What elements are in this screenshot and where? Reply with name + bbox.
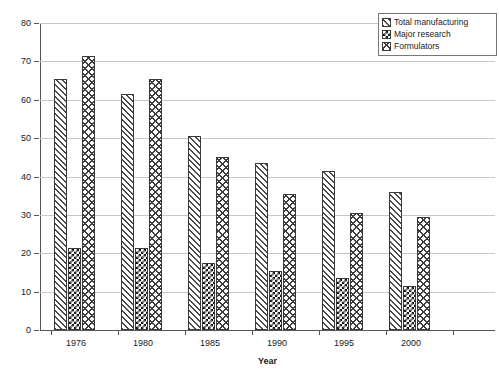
legend-swatch-icon — [382, 42, 391, 51]
legend-item-major-research[interactable]: Major research — [382, 29, 494, 40]
x-axis-tick-label: 2000 — [401, 338, 421, 348]
x-axis-tick-label: 1980 — [133, 338, 153, 348]
bar-total-manufacturing-1976 — [54, 79, 67, 330]
legend-swatch-icon — [382, 18, 391, 27]
legend-swatch-icon — [382, 30, 391, 39]
y-axis-tick-label: 10 — [21, 287, 31, 297]
bar-group-2000 — [389, 23, 430, 330]
x-axis-line — [40, 330, 495, 331]
legend: Total manufacturingMajor researchFormula… — [378, 13, 497, 56]
bar-formulators-1995 — [350, 213, 363, 330]
bar-formulators-1980 — [149, 79, 162, 330]
legend-item-total-manufacturing[interactable]: Total manufacturing — [382, 17, 494, 28]
y-axis-tick — [34, 138, 39, 139]
y-axis-tick — [34, 330, 39, 331]
plot-area: 01020304050607080 — [40, 23, 495, 330]
y-axis-tick-label: 80 — [21, 18, 31, 28]
x-axis-tick — [319, 330, 320, 335]
y-axis-tick-label: 70 — [21, 56, 31, 66]
bar-major-research-1976 — [68, 248, 81, 331]
bar-total-manufacturing-2000 — [389, 192, 402, 330]
bar-major-research-1990 — [269, 271, 282, 330]
bar-total-manufacturing-1995 — [322, 171, 335, 330]
y-axis-tick-label: 60 — [21, 95, 31, 105]
bar-formulators-1976 — [82, 56, 95, 330]
bar-formulators-2000 — [417, 217, 430, 330]
legend-label: Major research — [394, 29, 451, 40]
bar-major-research-1995 — [336, 278, 349, 330]
legend-label: Formulators — [394, 41, 439, 52]
y-axis-tick-label: 20 — [21, 248, 31, 258]
y-axis-tick-label: 40 — [21, 172, 31, 182]
bar-total-manufacturing-1990 — [255, 163, 268, 330]
x-axis-tick — [118, 330, 119, 335]
bar-total-manufacturing-1980 — [121, 94, 134, 330]
x-axis-tick — [386, 330, 387, 335]
bar-group-1990 — [255, 23, 296, 330]
x-axis-tick-label: 1976 — [66, 338, 86, 348]
bar-formulators-1990 — [283, 194, 296, 330]
bar-group-1980 — [121, 23, 162, 330]
y-axis-tick — [34, 292, 39, 293]
y-axis-tick-label: 50 — [21, 133, 31, 143]
y-axis-tick — [34, 215, 39, 216]
y-axis-tick — [34, 61, 39, 62]
y-axis-tick — [34, 100, 39, 101]
y-axis-tick — [34, 253, 39, 254]
x-axis-tick-label: 1985 — [200, 338, 220, 348]
bar-major-research-2000 — [403, 286, 416, 330]
x-axis-tick — [185, 330, 186, 335]
bar-chart: Number of companies 01020304050607080 19… — [0, 0, 499, 376]
bar-group-1995 — [322, 23, 363, 330]
x-axis-title: Year — [40, 356, 495, 366]
x-axis-tick — [51, 330, 52, 335]
y-axis-tick — [34, 23, 39, 24]
y-axis-tick-label: 0 — [26, 325, 31, 335]
x-axis-tick-label: 1995 — [334, 338, 354, 348]
legend-item-formulators[interactable]: Formulators — [382, 41, 494, 52]
x-axis-tick-label: 1990 — [267, 338, 287, 348]
legend-label: Total manufacturing — [394, 17, 468, 28]
bar-group-1985 — [188, 23, 229, 330]
x-axis-tick — [252, 330, 253, 335]
bar-formulators-1985 — [216, 157, 229, 330]
y-axis-tick — [34, 177, 39, 178]
bar-group-1976 — [54, 23, 95, 330]
x-axis-tick — [453, 330, 454, 335]
bar-major-research-1980 — [135, 248, 148, 331]
y-axis-tick-label: 30 — [21, 210, 31, 220]
bar-major-research-1985 — [202, 263, 215, 330]
bar-total-manufacturing-1985 — [188, 136, 201, 330]
